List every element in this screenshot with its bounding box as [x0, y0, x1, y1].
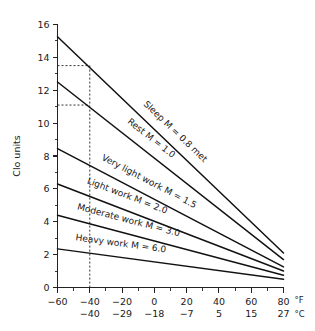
x-tick-label-celsius: −7: [180, 308, 194, 319]
y-axis-tick-labels: 0246810121416: [37, 19, 49, 293]
x-tick-label-fahrenheit: 60: [245, 296, 257, 307]
y-tick-label: 8: [43, 151, 49, 162]
x-tick-label-fahrenheit: 40: [213, 296, 225, 307]
y-axis-title: Clo units: [11, 135, 22, 177]
x-axis-unit-fahrenheit: °F: [295, 295, 304, 305]
y-axis-ticks: [53, 25, 58, 288]
x-tick-label-celsius: −18: [144, 308, 164, 319]
x-tick-label-celsius: 5: [216, 308, 222, 319]
y-tick-label: 6: [43, 183, 49, 194]
x-axis-unit-celsius: °C: [295, 309, 305, 319]
series-inline-labels: Sleep M = 0.8 metRest M = 1.0Very light …: [75, 99, 210, 255]
x-axis-ticks: [58, 288, 284, 293]
x-tick-label-fahrenheit: −40: [80, 296, 100, 307]
x-tick-label-celsius: −29: [112, 308, 132, 319]
y-tick-label: 2: [43, 249, 49, 260]
x-tick-label-fahrenheit: 20: [181, 296, 193, 307]
series-label: Heavy work M = 6.0: [75, 232, 167, 254]
chart-plot-area: 0246810121416 −60−40−20020406080 −40−29−…: [0, 0, 315, 331]
x-tick-label-fahrenheit: −60: [47, 296, 67, 307]
x-tick-label-fahrenheit: 80: [277, 296, 289, 307]
series-line: [58, 37, 284, 253]
series-line: [58, 249, 284, 279]
y-tick-label: 0: [43, 282, 49, 293]
y-tick-label: 14: [37, 52, 49, 63]
series-line: [58, 215, 284, 275]
x-tick-label-fahrenheit: −20: [112, 296, 132, 307]
y-tick-label: 12: [37, 85, 49, 96]
x-tick-label-celsius: 15: [245, 308, 257, 319]
x-tick-label-celsius: 27: [277, 308, 289, 319]
clo-units-chart: 0246810121416 −60−40−20020406080 −40−29−…: [0, 0, 315, 331]
x-axis-tick-labels-celsius: −40−29−18−751527: [80, 308, 290, 319]
x-axis-tick-labels-fahrenheit: −60−40−20020406080: [47, 296, 289, 307]
reference-guide-lines: [58, 66, 90, 288]
x-tick-label-fahrenheit: 0: [151, 296, 157, 307]
x-tick-label-celsius: −40: [80, 308, 100, 319]
y-tick-label: 10: [37, 118, 49, 129]
y-tick-label: 16: [37, 19, 49, 30]
y-tick-label: 4: [43, 216, 49, 227]
